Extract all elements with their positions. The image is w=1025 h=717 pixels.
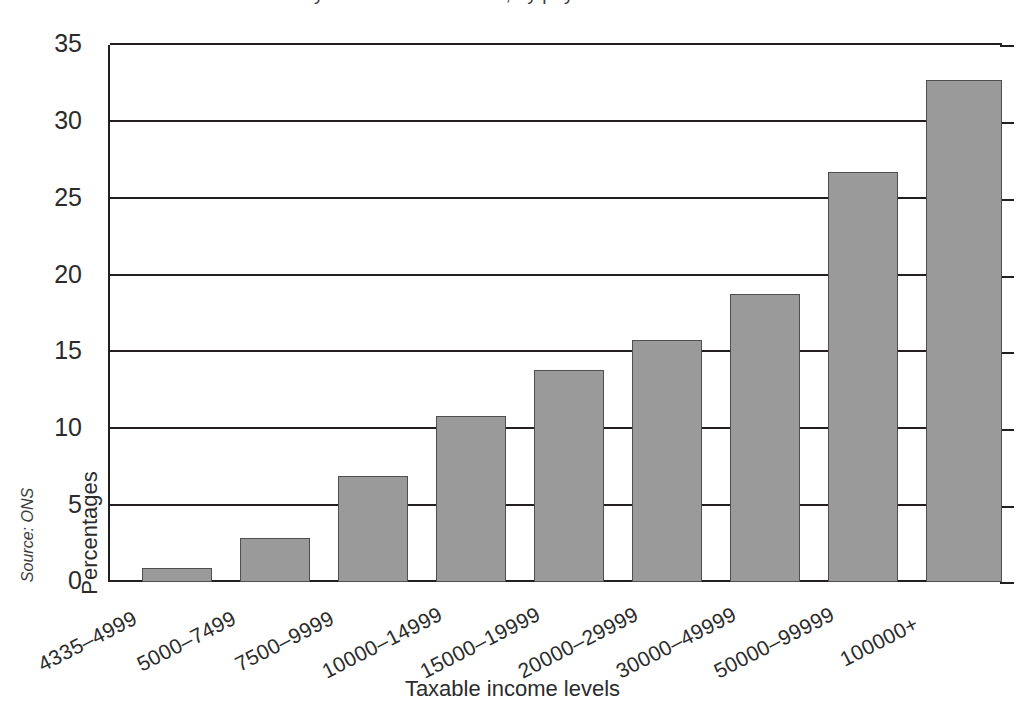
bar-4335-4999[interactable] <box>142 568 212 582</box>
y-tick-mark <box>1000 199 1014 201</box>
gridline-30 <box>110 120 1002 122</box>
y-tick-label: 30 <box>2 108 82 133</box>
y-tick-label: 35 <box>2 31 82 56</box>
bar-15000-19999[interactable] <box>534 370 604 582</box>
y-axis-title: Percentages <box>77 433 103 633</box>
bar-10000-14999[interactable] <box>436 416 506 582</box>
plot-area <box>108 45 1000 582</box>
y-tick-label: 10 <box>2 415 82 440</box>
bar-30000-49999[interactable] <box>730 294 800 582</box>
y-tick-label: 25 <box>2 185 82 210</box>
y-tick-mark <box>1000 45 1014 47</box>
y-tick-mark <box>1000 276 1014 278</box>
bar-100000-plus[interactable] <box>926 80 1002 582</box>
bar-50000-99999[interactable] <box>828 172 898 582</box>
bar-20000-29999[interactable] <box>632 340 702 582</box>
y-tick-mark <box>1000 352 1014 354</box>
y-axis-title-wrap: Percentages <box>52 230 82 400</box>
source-note: Source: ONS <box>19 475 37 595</box>
x-tick-label-15000-19999: 15000–19999 <box>416 602 544 683</box>
x-tick-label-100000-plus: 100000+ <box>836 612 922 672</box>
x-tick-label-20000-29999: 20000–29999 <box>514 602 642 683</box>
x-tick-label-30000-49999: 30000–49999 <box>612 602 740 683</box>
y-tick-mark <box>1000 506 1014 508</box>
y-tick-mark <box>1000 582 1014 584</box>
x-axis-title: Taxable income levels <box>0 676 1025 702</box>
source-note-wrap: Source: ONS <box>10 480 40 590</box>
x-tick-label-7500-9999: 7500–9999 <box>231 606 338 676</box>
y-tick-mark <box>1000 122 1014 124</box>
x-tick-label-10000-14999: 10000–14999 <box>318 602 446 683</box>
bar-5000-7499[interactable] <box>240 538 310 582</box>
x-tick-label-50000-99999: 50000–99999 <box>710 602 838 683</box>
bar-chart-figure: 35 30 25 20 15 10 5 0 <box>0 0 1025 717</box>
bar-7500-9999[interactable] <box>338 476 408 582</box>
gridline-35 <box>110 43 1002 45</box>
y-tick-mark <box>1000 429 1014 431</box>
x-tick-label-5000-7499: 5000–7499 <box>133 606 240 676</box>
